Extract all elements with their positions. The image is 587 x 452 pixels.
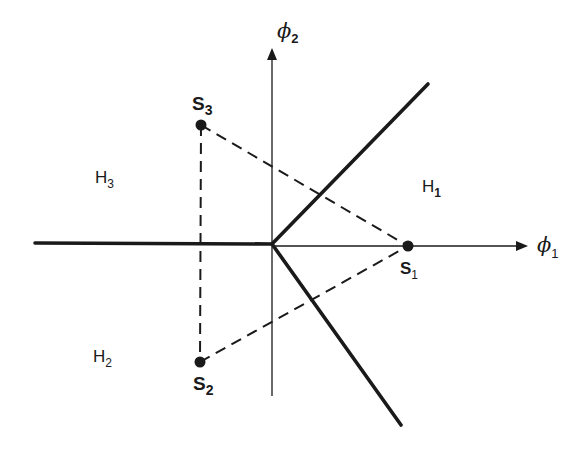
- point-s2: [195, 357, 206, 368]
- point-s1: [403, 241, 414, 252]
- label-s1: S1: [400, 259, 418, 282]
- boundary-lower-right: [272, 244, 401, 425]
- label-phi2: ϕ2: [277, 19, 299, 46]
- label-h1: H1: [422, 177, 441, 200]
- dashed-s2-s1: [200, 246, 408, 362]
- label-h2: H2: [93, 347, 112, 370]
- dashed-s3-s1: [201, 125, 408, 246]
- boundary-left: [35, 243, 272, 244]
- label-s2: S2: [193, 373, 214, 398]
- decision-region-diagram: S3 S1 S2 H3 H1 H2 ϕ2 ϕ1: [0, 0, 587, 452]
- label-h3: H3: [95, 168, 114, 191]
- point-s3: [196, 120, 207, 131]
- axes: [272, 50, 526, 396]
- label-phi1: ϕ1: [537, 233, 559, 261]
- label-s3: S3: [192, 93, 213, 118]
- boundary-upper-right: [272, 84, 428, 244]
- decision-boundaries: [35, 84, 428, 425]
